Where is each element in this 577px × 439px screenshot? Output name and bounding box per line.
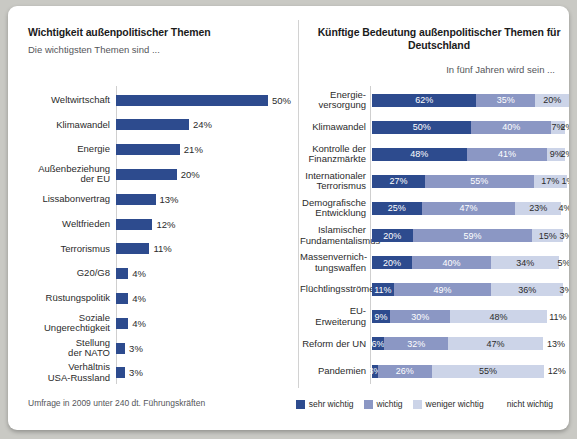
right-bar-segment-value: 3%: [559, 285, 569, 295]
right-bar-row: Pandemien3%26%55%12%: [300, 359, 569, 383]
right-bar-segment: 20%: [535, 94, 569, 107]
right-bar-segment: 40%: [471, 121, 551, 134]
left-chart-title: Wichtigkeit außenpolitischer Themen: [28, 26, 211, 38]
right-bar-row: EU-Erweiterung9%30%48%11%: [300, 305, 569, 329]
right-bar-segment: 6%: [372, 337, 384, 350]
left-bar-value: 11%: [153, 243, 171, 254]
right-bar-segment: 34%: [491, 256, 559, 269]
right-bar-label: Pandemien: [300, 366, 370, 377]
right-bar-segment-value: 41%: [498, 149, 516, 159]
right-bar-segment: 48%: [450, 310, 546, 323]
left-bar-track: 50%: [114, 89, 298, 111]
left-bar-label: Soziale Ungerechtigkeit: [18, 313, 114, 334]
legend-swatch-icon: [296, 400, 305, 409]
right-bar-segment-value: 11%: [549, 312, 566, 322]
right-bar-stack: 20%40%34%5%: [372, 256, 569, 269]
left-bar-row: Rüstungspolitik4%: [18, 287, 298, 309]
right-bar-row: Flüchtlingsströme11%49%36%3%: [300, 278, 569, 302]
left-bar-row: Lissabonvertrag13%: [18, 188, 298, 210]
right-bar-segment-value: 48%: [490, 312, 508, 322]
right-bar-segment: 50%: [372, 121, 471, 134]
right-bar-segment: 9%: [372, 310, 390, 323]
left-bar: [116, 95, 268, 106]
right-bar-segment: 55%: [425, 175, 533, 188]
legend-swatch-icon: [413, 400, 422, 409]
right-bar-segment-value: 34%: [516, 258, 534, 268]
left-bar-track: 12%: [114, 213, 298, 235]
right-bar-stack: 6%32%47%13%: [372, 337, 569, 350]
right-bar-label: Reform der UN: [300, 339, 370, 350]
left-bar-track: 20%: [114, 163, 298, 185]
left-bar-row: Weltfrieden12%: [18, 213, 298, 235]
right-bar-segment-value: 20%: [543, 95, 561, 105]
right-bar-segment: 4%: [561, 202, 569, 215]
right-bar-segment: 13%: [543, 337, 569, 350]
right-bar-segment-value: 50%: [413, 122, 431, 132]
left-bar-track: 4%: [114, 263, 298, 285]
right-bar-segment-value: 36%: [518, 285, 536, 295]
right-bar-segment-value: 15%: [539, 231, 557, 241]
right-bar-stack: 9%30%48%11%: [372, 310, 569, 323]
left-bar-track: 4%: [114, 287, 298, 309]
left-bar-label: Weltwirtschaft: [18, 95, 114, 106]
right-bar-segment-value: 12%: [548, 366, 566, 376]
left-bar-label: Stellung der NATO: [18, 338, 114, 359]
right-bar-label: Massenvernich- tungswaffen: [300, 252, 370, 273]
left-bar-track: 11%: [114, 238, 298, 260]
right-bar-row: Internationaler Terrorismus27%55%17%1%: [300, 169, 569, 193]
right-bar-label: Kontrolle der Finanzmärkte: [300, 144, 370, 165]
left-bar-label: Lissabonvertrag: [18, 194, 114, 205]
right-bar-segment: 47%: [448, 337, 542, 350]
left-bar: [116, 194, 156, 205]
right-bar-segment: 15%: [532, 229, 562, 242]
legend-item: wichtig: [364, 399, 403, 409]
left-bar: [116, 318, 128, 329]
left-bar-label: Verhältnis USA-Russland: [18, 362, 114, 383]
legend-item: sehr wichtig: [296, 399, 354, 409]
left-bar-row: G20/G84%: [18, 263, 298, 285]
right-bar-row: Islamischer Fundamentalismus20%59%15%3%: [300, 224, 569, 248]
right-bar-segment: 35%: [476, 94, 535, 107]
left-bar-row: Verhältnis USA-Russland3%: [18, 362, 298, 384]
legend-swatch-icon: [364, 400, 373, 409]
left-bar-track: 3%: [114, 362, 298, 384]
left-bar-value: 3%: [129, 367, 143, 378]
left-bar-label: Klimawandel: [18, 120, 114, 131]
right-bar-segment: 5%: [559, 256, 569, 269]
right-chart-title: Künftige Bedeutung außenpolitischer Them…: [308, 26, 569, 52]
left-bar-track: 24%: [114, 114, 298, 136]
legend-swatch-icon: [494, 400, 503, 409]
left-bar-row: Energie21%: [18, 139, 298, 161]
legend-item: nicht wichtig: [494, 399, 553, 409]
left-bar-label: Energie: [18, 144, 114, 155]
left-bar-label: Rüstungspolitik: [18, 293, 114, 304]
right-bar-segment-value: 13%: [547, 339, 565, 349]
right-bar-segment-value: 47%: [459, 203, 477, 213]
right-bar-segment: 55%: [432, 365, 545, 378]
right-bar-segment-value: 1%: [561, 176, 569, 186]
right-bar-segment: 59%: [413, 229, 533, 242]
legend-label: nicht wichtig: [507, 399, 553, 409]
right-bar-segment: 20%: [372, 229, 413, 242]
right-bar-segment-value: 27%: [390, 176, 408, 186]
left-bar: [116, 169, 177, 180]
right-bar-segment: 26%: [378, 365, 431, 378]
right-chart-subtitle: In fünf Jahren wird sein ...: [446, 64, 555, 75]
right-bar-segment: 11%: [547, 310, 569, 323]
right-bar-segment-value: 40%: [502, 122, 520, 132]
right-bar-segment: 27%: [372, 175, 425, 188]
legend: sehr wichtigwichtigweniger wichtignicht …: [296, 399, 553, 409]
right-bar-stack: 20%59%15%3%: [372, 229, 569, 242]
legend-label: sehr wichtig: [309, 399, 354, 409]
left-bar-track: 13%: [114, 188, 298, 210]
right-bar-segment-value: 55%: [470, 176, 488, 186]
left-bar-row: Terrorismus11%: [18, 238, 298, 260]
right-bar-segment-value: 48%: [410, 149, 428, 159]
left-bar-row: Soziale Ungerechtigkeit4%: [18, 312, 298, 334]
left-bar-value: 50%: [272, 95, 291, 106]
left-bar-track: 4%: [114, 312, 298, 334]
right-bar-segment: 32%: [384, 337, 448, 350]
right-bar-row: Kontrolle der Finanzmärkte48%41%9%2%: [300, 142, 569, 166]
left-bar-value: 4%: [132, 293, 146, 304]
left-chart-subtitle: Die wichtigsten Themen sind ...: [28, 44, 160, 55]
